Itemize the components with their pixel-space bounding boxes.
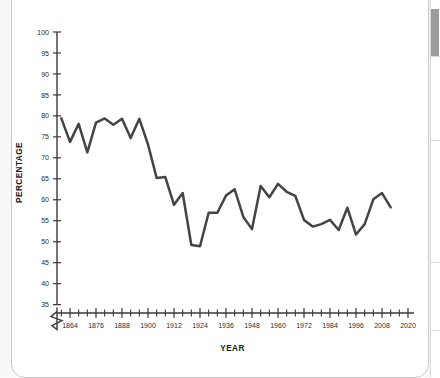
y-axis-break-symbol [51, 308, 62, 330]
x-axis-tick-label: 1948 [244, 322, 260, 329]
y-axis-tick-label: 40 [41, 280, 49, 287]
y-axis-tick-label: 35 [41, 301, 49, 308]
y-axis-tick-label: 95 [41, 50, 49, 57]
vertical-scrollbar-track[interactable] [430, 0, 440, 377]
x-axis-tick-label: 1960 [270, 322, 286, 329]
x-axis-tick-label: 2020 [400, 322, 416, 329]
y-axis-tick-label: 80 [41, 112, 49, 119]
y-axis-tick-label: 45 [41, 259, 49, 266]
x-axis-tick-label: 1972 [296, 322, 312, 329]
y-axis-tick-label: 100 [37, 29, 49, 36]
y-axis-tick-label: 75 [41, 133, 49, 140]
y-axis-tick-label: 70 [41, 154, 49, 161]
x-axis-tick-label: 1864 [62, 322, 78, 329]
x-axis-tick-label: 1924 [192, 322, 208, 329]
series-line-turnout [61, 118, 390, 246]
y-axis-tick-label: 50 [41, 238, 49, 245]
y-axis-tick-label: 55 [41, 217, 49, 224]
y-axis-title: PERCENTAGE [15, 142, 24, 203]
x-axis-tick-label: 2008 [374, 322, 390, 329]
y-axis-tick-label: 65 [41, 175, 49, 182]
x-axis-tick-label: 1936 [218, 322, 234, 329]
x-axis-tick-label: 1912 [166, 322, 182, 329]
x-axis-title: YEAR [220, 344, 245, 353]
x-axis-tick-label: 1984 [322, 322, 338, 329]
x-axis-tick-label: 1996 [348, 322, 364, 329]
y-axis-tick-label: 60 [41, 196, 49, 203]
x-axis-tick-label: 1888 [114, 322, 130, 329]
x-axis-tick-label: 1876 [88, 322, 104, 329]
vertical-scrollbar-thumb[interactable] [431, 9, 439, 56]
x-axis-tick-label: 1900 [140, 322, 156, 329]
y-axis-tick-label: 90 [41, 71, 49, 78]
y-axis-tick-label: 85 [41, 92, 49, 99]
